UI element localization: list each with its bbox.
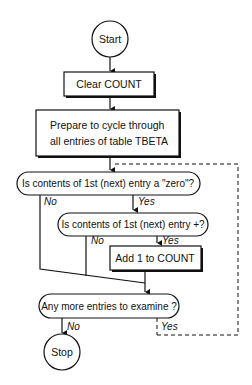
clear-count-label: Clear COUNT	[76, 78, 142, 90]
decision-zero-yes: Yes	[138, 196, 155, 207]
decision-more: Any more entries to examine ?	[39, 294, 179, 318]
flowchart: Start Clear COUNT Prepare to cycle throu…	[0, 0, 252, 385]
add-count-box: Add 1 to COUNT	[110, 246, 203, 272]
clear-count-box: Clear COUNT	[64, 72, 156, 98]
stop-label: Stop	[51, 346, 73, 358]
decision-zero-label: Is contents of 1st (next) entry a "zero"…	[22, 178, 195, 189]
decision-more-no: No	[67, 321, 80, 332]
stop-node: Stop	[44, 334, 80, 370]
decision-positive-no: No	[91, 235, 104, 246]
start-node: Start	[92, 21, 128, 57]
decision-more-yes: Yes	[161, 321, 178, 332]
decision-positive-yes: Yes	[162, 235, 179, 246]
add-count-label: Add 1 to COUNT	[115, 252, 195, 264]
decision-zero: Is contents of 1st (next) entry a "zero"…	[17, 172, 200, 195]
start-label: Start	[99, 33, 121, 45]
decision-more-label: Any more entries to examine ?	[41, 301, 177, 312]
prepare-line2: all entries of table TBETA	[50, 135, 168, 147]
prepare-box: Prepare to cycle through all entries of …	[36, 110, 181, 158]
decision-positive-label: Is contents of 1st (next) entry +?	[61, 219, 205, 230]
decision-positive: Is contents of 1st (next) entry +?	[58, 213, 208, 236]
prepare-line1: Prepare to cycle through	[50, 119, 165, 131]
decision-zero-no: No	[44, 196, 57, 207]
